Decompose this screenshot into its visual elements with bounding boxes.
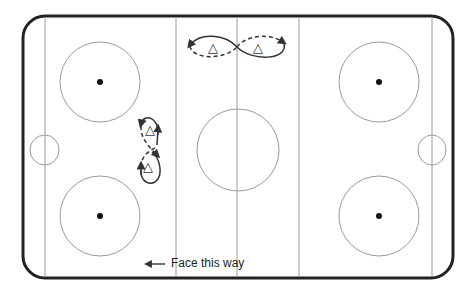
- rink-boards: [23, 16, 453, 278]
- caption-text: Face this way: [171, 256, 244, 270]
- goal-crease-right: [432, 135, 446, 165]
- player-triangle-icon: △: [145, 122, 155, 137]
- player-triangle-icon: △: [253, 40, 263, 55]
- goal-crease-left: [30, 135, 45, 165]
- player-triangle-icon: △: [208, 40, 218, 55]
- player-triangle-icon: △: [143, 159, 153, 174]
- faceoff-dot: [376, 79, 382, 85]
- rink-diagram: △ △ △ △: [0, 0, 473, 289]
- skating-path-solid: [157, 128, 158, 145]
- faceoff-dot: [97, 213, 103, 219]
- goal-crease-left-arc: [45, 135, 59, 165]
- faceoff-dot: [376, 213, 382, 219]
- faceoff-dot: [97, 79, 103, 85]
- center-circle: [197, 109, 279, 191]
- caption: Face this way: [147, 256, 244, 270]
- goal-crease-right-arc: [418, 135, 432, 165]
